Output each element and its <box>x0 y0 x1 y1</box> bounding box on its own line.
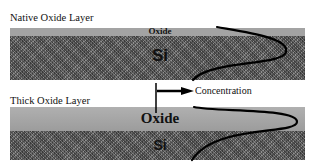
native-concentration-curve <box>193 27 286 80</box>
thick-concentration-curve <box>192 107 297 160</box>
concentration-profiles <box>0 0 314 168</box>
concentration-arrow-head <box>181 87 194 95</box>
